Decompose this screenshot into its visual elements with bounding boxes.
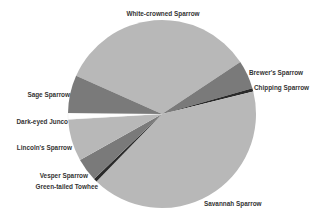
pie-chart: White-crowned Sparrow Brewer's Sparrow C… (0, 0, 319, 224)
label-brewers-sparrow: Brewer's Sparrow (249, 69, 303, 77)
label-white-crowned-sparrow: White-crowned Sparrow (126, 10, 199, 18)
label-vesper-sparrow: Vesper Sparrow (40, 172, 88, 180)
label-savannah-sparrow: Savannah Sparrow (204, 200, 262, 208)
label-sage-sparrow: Sage Sparrow (27, 91, 70, 99)
label-dark-eyed-junco: Dark-eyed Junco (17, 118, 69, 126)
pie-slices (68, 20, 256, 208)
label-green-tailed-towhee: Green-tailed Towhee (36, 183, 99, 190)
label-lincolns-sparrow: Lincoln's Sparrow (17, 144, 72, 152)
label-chipping-sparrow: Chipping Sparrow (254, 84, 309, 92)
